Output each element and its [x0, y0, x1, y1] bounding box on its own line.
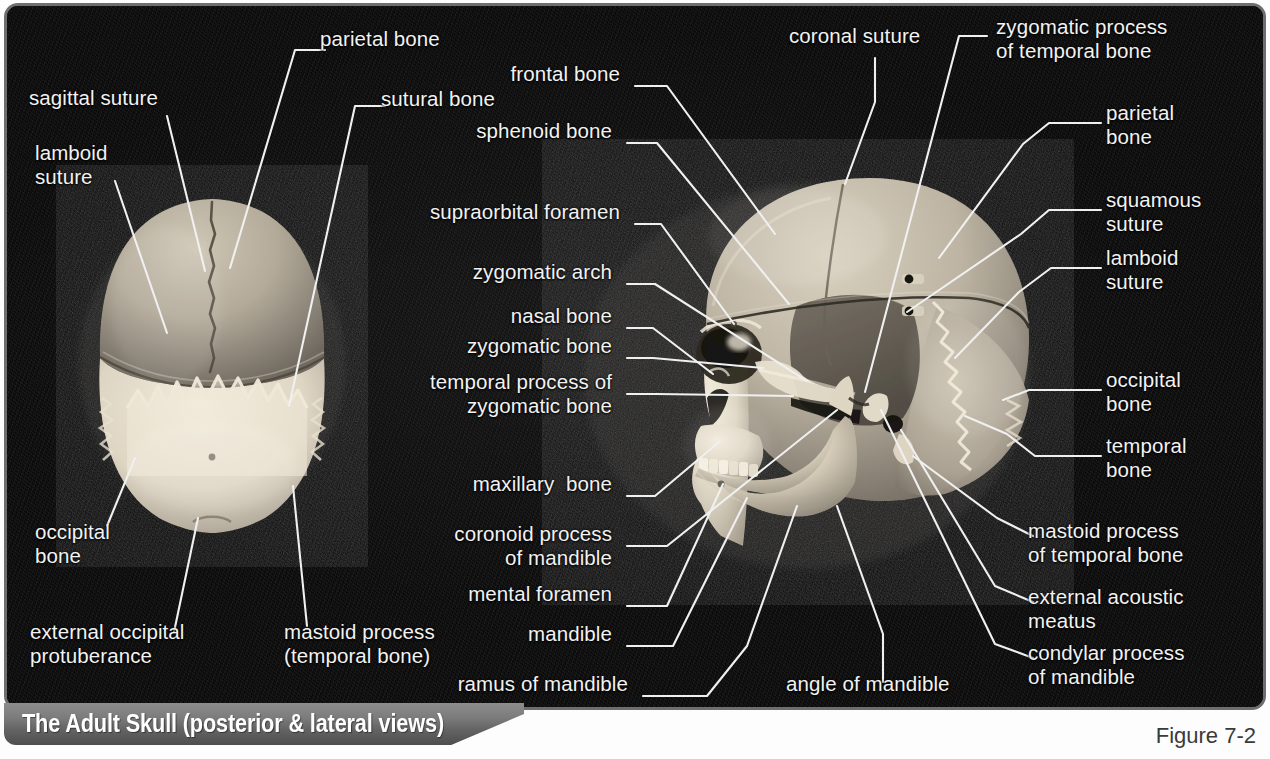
label-occipital-bone-posterior: occipital bone — [35, 520, 110, 567]
label-mandible: mandible — [340, 622, 612, 646]
label-mastoid-process-of-temporal-bone: mastoid process of temporal bone — [1028, 519, 1183, 566]
label-mental-foramen: mental foramen — [340, 582, 612, 606]
label-coronal-suture: coronal suture — [789, 24, 920, 48]
label-parietal-bone: parietal bone — [320, 27, 440, 51]
posterior-skull-image — [82, 199, 342, 533]
figure-number: Figure 7-2 — [1156, 723, 1256, 749]
label-external-occipital-protuberance: external occipital protuberance — [30, 620, 185, 667]
label-condylar-process-of-mandible: condylar process of mandible — [1028, 641, 1185, 688]
label-sphenoid-bone: sphenoid bone — [340, 119, 612, 143]
anatomy-figure: parietal bone sagittal suture sutural bo… — [0, 0, 1270, 759]
label-nasal-bone: nasal bone — [340, 304, 612, 328]
label-supraorbital-foramen: supraorbital foramen — [320, 200, 620, 224]
caption-text: The Adult Skull (posterior & lateral vie… — [22, 709, 444, 738]
leader-coronal-suture — [845, 58, 875, 184]
label-temporal-bone: temporal bone — [1106, 434, 1187, 481]
leader-external-occipital-protuberance — [174, 518, 198, 632]
label-lamboid-suture: lamboid suture — [35, 141, 108, 188]
label-sagittal-suture: sagittal suture — [0, 86, 158, 110]
label-coronoid-process-of-mandible: coronoid process of mandible — [330, 522, 612, 569]
label-zygomatic-process-of-temporal-bone: zygomatic process of temporal bone — [996, 15, 1167, 62]
label-occipital-bone-lateral: occipital bone — [1106, 368, 1181, 415]
label-squamous-suture: squamous suture — [1106, 188, 1201, 235]
label-external-acoustic-meatus: external acoustic meatus — [1028, 585, 1184, 632]
label-sutural-bone: sutural bone — [381, 87, 495, 111]
label-temporal-process-of-zygomatic-bone: temporal process of zygomatic bone — [320, 370, 612, 417]
lateral-skull-image — [587, 178, 1029, 566]
leader-mastoid-process-temporal — [293, 486, 307, 626]
label-parietal-bone-lateral: parietal bone — [1106, 101, 1174, 148]
label-ramus-of-mandible: ramus of mandible — [350, 672, 628, 696]
label-zygomatic-arch: zygomatic arch — [340, 260, 612, 284]
label-zygomatic-bone: zygomatic bone — [340, 334, 612, 358]
label-frontal-bone: frontal bone — [340, 62, 620, 86]
label-angle-of-mandible: angle of mandible — [786, 672, 950, 696]
label-maxillary-bone: maxillary bone — [340, 472, 612, 496]
label-lamboid-suture-lateral: lamboid suture — [1106, 246, 1179, 293]
